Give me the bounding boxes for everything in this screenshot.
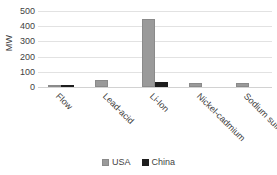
legend-entry-usa[interactable]: USA	[102, 158, 131, 167]
bars-layer	[38, 11, 272, 87]
chart-legend: USAChina	[0, 158, 277, 167]
bar-chart: MW 0100200300400500 FlowLead-acidLi-IonN…	[0, 0, 277, 175]
bar-usa-lead-acid	[95, 80, 108, 87]
legend-label: USA	[112, 158, 131, 167]
x-axis-category-label: Flow	[54, 91, 75, 112]
x-axis-category-labels: FlowLead-acidLi-IonNickel-cadmiumSodium …	[38, 88, 272, 150]
legend-swatch-icon	[102, 159, 109, 166]
x-axis-category-label: Li-Ion	[148, 91, 171, 114]
x-axis-label-slot: Nickel-cadmium	[178, 88, 225, 150]
bar-group	[85, 11, 132, 87]
y-axis-tick-label: 100	[14, 67, 35, 76]
x-axis-label-slot: Sodium sulfur	[225, 88, 272, 150]
bar-group	[178, 11, 225, 87]
legend-entry-china[interactable]: China	[142, 158, 176, 167]
y-axis-tick-label: 300	[14, 37, 35, 46]
x-axis-label-slot: Lead-acid	[85, 88, 132, 150]
y-axis-tick-labels: 0100200300400500	[14, 11, 35, 87]
bar-usa-nickel-cadmium	[189, 83, 202, 87]
legend-swatch-icon	[142, 159, 149, 166]
bar-group	[38, 11, 85, 87]
legend-label: China	[152, 158, 176, 167]
y-axis-tick-label: 200	[14, 52, 35, 61]
y-axis-tick-label: 0	[14, 83, 35, 92]
y-axis-title: MW	[4, 23, 14, 63]
plot-area	[38, 11, 272, 87]
bar-group	[132, 11, 179, 87]
x-axis-label-slot: Flow	[38, 88, 85, 150]
bar-usa-flow	[48, 85, 61, 87]
bar-china-flow	[61, 85, 74, 87]
bar-usa-sodium-sulfur	[236, 83, 249, 87]
x-axis-label-slot: Li-Ion	[132, 88, 179, 150]
bar-group	[225, 11, 272, 87]
y-axis-tick-label: 400	[14, 22, 35, 31]
bar-china-li-ion	[155, 82, 168, 87]
y-axis-tick-label: 500	[14, 7, 35, 16]
bar-usa-li-ion	[142, 19, 155, 87]
x-axis-category-label: Sodium sulfur	[242, 91, 277, 137]
